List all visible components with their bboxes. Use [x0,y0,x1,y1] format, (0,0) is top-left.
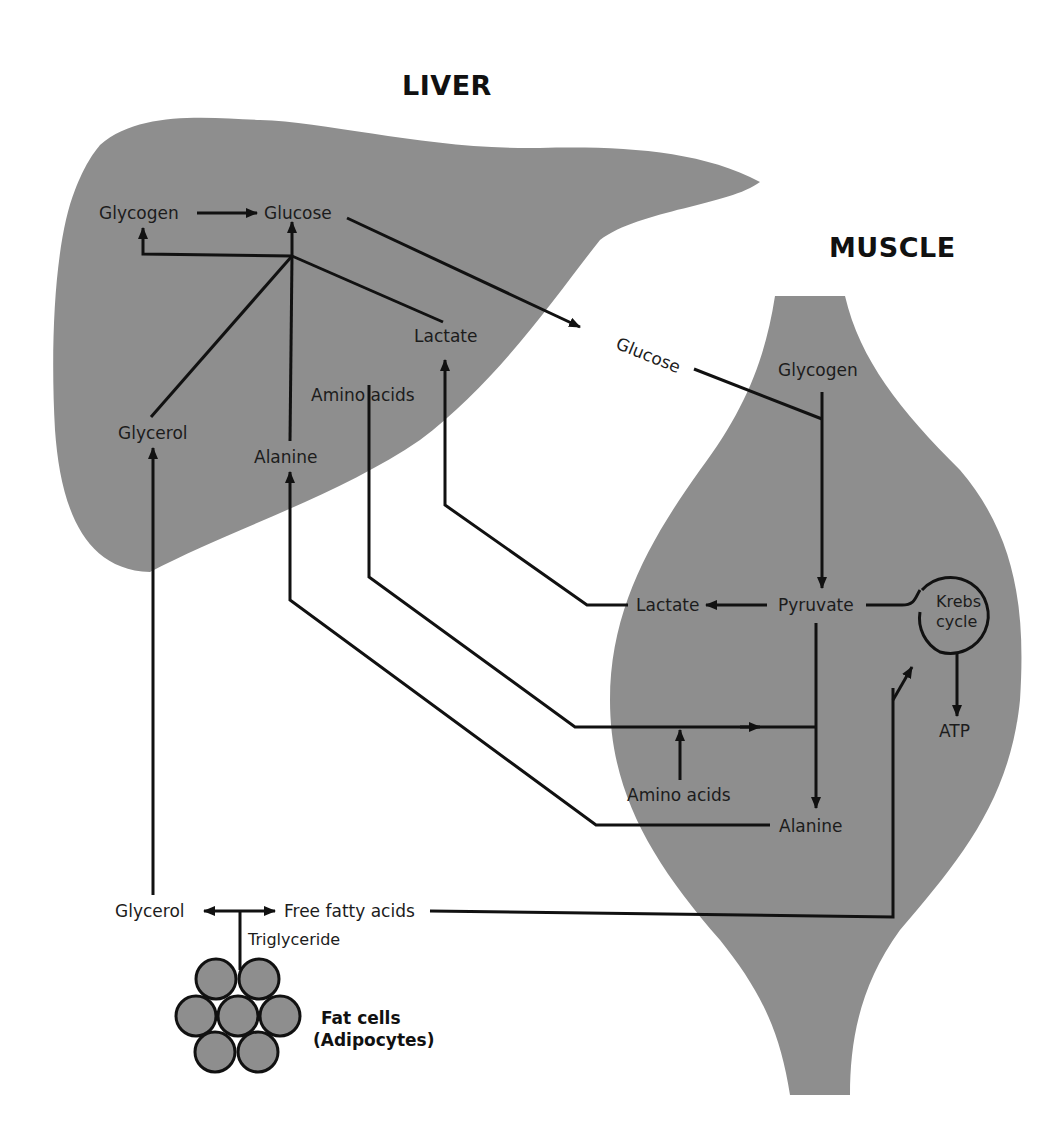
liver-amino-acids-label: Amino acids [311,387,415,404]
liver-glycogen-label: Glycogen [99,205,179,222]
krebs-label-line1: Krebs [936,594,981,610]
krebs-label-line2: cycle [936,614,977,630]
muscle-lactate-label: Lactate [636,597,699,614]
adipocytes-title: (Adipocytes) [313,1030,434,1050]
liver-alanine-label: Alanine [254,449,318,466]
triglyceride-label: Triglyceride [248,932,340,948]
liver-glucose-label: Glucose [264,205,332,222]
muscle-pyruvate-label: Pyruvate [778,597,854,614]
liver-lactate-label: Lactate [414,328,477,345]
diagram-canvas [0,0,1063,1148]
muscle-glycogen-label: Glycogen [778,362,858,379]
fat-cells-title: Fat cells [321,1008,401,1028]
atp-label: ATP [939,723,970,740]
liver-shape [53,118,760,572]
muscle-alanine-label: Alanine [779,818,843,835]
muscle-amino-acids-label: Amino acids [627,787,731,804]
liver-title: LIVER [402,70,492,101]
fat-cells-cluster [176,959,300,1072]
free-fatty-acids-label: Free fatty acids [284,903,415,920]
liver-glycerol-label: Glycerol [118,425,188,442]
muscle-title: MUSCLE [829,232,956,263]
adipose-glycerol-label: Glycerol [115,903,185,920]
